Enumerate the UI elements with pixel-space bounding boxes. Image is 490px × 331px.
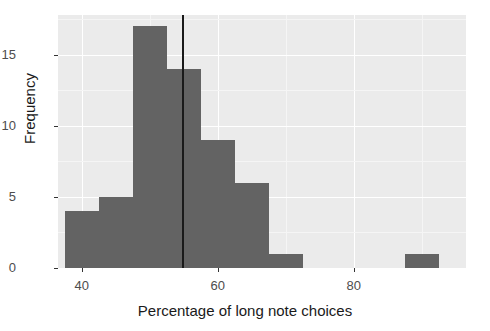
x-tick-mark <box>218 268 219 272</box>
x-gridline-major <box>354 15 355 268</box>
x-tick-label: 80 <box>324 279 384 292</box>
x-axis-title: Percentage of long note choices <box>0 302 490 319</box>
histogram-figure: Frequency Percentage of long note choice… <box>0 0 490 331</box>
x-gridline-minor <box>422 15 423 268</box>
histogram-bar <box>201 140 235 268</box>
histogram-bar <box>269 254 303 268</box>
histogram-bar <box>65 211 99 268</box>
histogram-bar <box>99 197 133 268</box>
histogram-bar <box>405 254 439 268</box>
y-tick-label: 10 <box>2 119 16 132</box>
y-tick-mark <box>54 126 58 127</box>
y-gridline-minor <box>58 90 466 91</box>
y-axis-title: Frequency <box>21 34 38 184</box>
x-tick-mark <box>82 268 83 272</box>
y-tick-label: 5 <box>9 190 16 203</box>
x-tick-label: 60 <box>188 279 248 292</box>
y-tick-mark <box>54 268 58 269</box>
y-tick-label: 15 <box>2 48 16 61</box>
mean-reference-line <box>182 15 184 268</box>
y-tick-mark <box>54 197 58 198</box>
y-gridline-major <box>58 126 466 127</box>
histogram-bar <box>133 26 167 268</box>
y-gridline-major <box>58 55 466 56</box>
y-tick-label: 0 <box>9 261 16 274</box>
x-gridline-minor <box>286 15 287 268</box>
y-gridline-minor <box>58 19 466 20</box>
x-tick-label: 40 <box>52 279 112 292</box>
histogram-bar <box>235 183 269 268</box>
y-gridline-minor <box>58 161 466 162</box>
x-tick-mark <box>354 268 355 272</box>
y-tick-mark <box>54 55 58 56</box>
plot-panel <box>58 15 466 268</box>
